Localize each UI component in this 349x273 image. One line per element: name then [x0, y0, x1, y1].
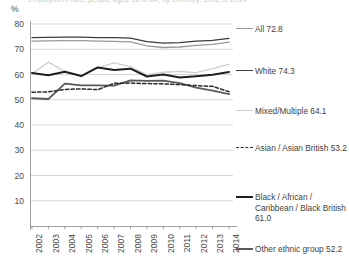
legend-label-black: Black / African / Caribbean / Black Brit…: [255, 192, 349, 224]
legend-label-other: Other ethnic group 52.2: [255, 244, 342, 255]
x-tick-label-2002: 2002: [35, 234, 44, 253]
line-chart-svg: [30, 24, 233, 226]
legend-item-other[interactable]: Other ethnic group 52.2: [236, 244, 349, 255]
legend-item-asian[interactable]: Asian / Asian British 53.2: [236, 143, 349, 154]
legend-swatch-mixed-icon: [236, 106, 253, 115]
plot-area: [30, 24, 233, 226]
x-tick-label-2013: 2013: [216, 234, 225, 253]
chart-title-text: Employment rate, people aged 16 to 64, b…: [0, 0, 349, 4]
legend-swatch-other-icon: [236, 244, 253, 253]
y-tick-label-70: 70: [15, 45, 24, 54]
y-tick-label-50: 50: [15, 95, 24, 104]
legend-item-white[interactable]: White 74.3: [236, 66, 349, 77]
legend-swatch-black-icon: [236, 192, 253, 201]
series-line-all: [32, 41, 229, 48]
legend-item-all[interactable]: All 72.8: [236, 24, 349, 35]
y-axis-tick-labels: 8070605040302010: [0, 0, 30, 273]
legend-swatch-white-icon: [236, 66, 253, 75]
legend-swatch-all-icon: [236, 24, 253, 33]
x-tick-label-2006: 2006: [101, 234, 110, 253]
x-tick-label-2012: 2012: [200, 234, 209, 253]
y-tick-label-40: 40: [15, 121, 24, 130]
x-tick-label-2004: 2004: [68, 234, 77, 253]
legend-swatch-asian-icon: [236, 143, 253, 152]
legend-item-mixed[interactable]: Mixed/Multiple 64.1: [236, 106, 349, 117]
legend-label-asian: Asian / Asian British 53.2: [255, 143, 347, 154]
chart-container: Employment rate, people aged 16 to 64, b…: [0, 0, 349, 273]
x-tick-label-2009: 2009: [150, 234, 159, 253]
x-axis-tick-labels: 2002200320042005200620072008200920102011…: [30, 226, 240, 273]
chart-title-clipped: Employment rate, people aged 16 to 64, b…: [0, 0, 349, 8]
x-tick-label-2005: 2005: [85, 234, 94, 253]
x-tick-label-2008: 2008: [134, 234, 143, 253]
y-tick-label-20: 20: [15, 171, 24, 180]
x-tick-label-2011: 2011: [183, 234, 192, 252]
legend-label-mixed: Mixed/Multiple 64.1: [255, 106, 326, 117]
legend-label-white: White 74.3: [255, 66, 295, 77]
y-tick-label-10: 10: [15, 196, 24, 205]
legend-label-all: All 72.8: [255, 24, 283, 35]
chart-legend: All 72.8White 74.3Mixed/Multiple 64.1Asi…: [236, 18, 349, 268]
x-tick-label-2003: 2003: [52, 234, 61, 253]
y-tick-label-30: 30: [15, 146, 24, 155]
legend-item-black[interactable]: Black / African / Caribbean / Black Brit…: [236, 192, 349, 224]
x-tick-label-2010: 2010: [167, 234, 176, 253]
y-tick-label-80: 80: [15, 20, 24, 29]
y-tick-label-60: 60: [15, 70, 24, 79]
x-tick-label-2007: 2007: [117, 234, 126, 253]
